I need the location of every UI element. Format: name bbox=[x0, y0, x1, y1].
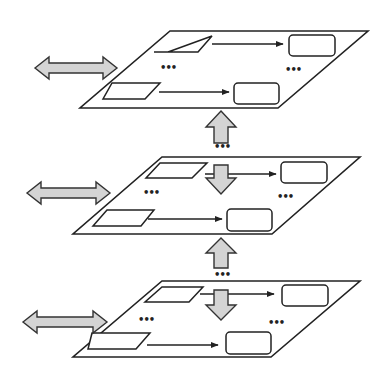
ellipsis-left: ••• bbox=[160, 62, 176, 73]
ellipsis-right: ••• bbox=[285, 64, 301, 75]
ellipsis-right: ••• bbox=[268, 317, 284, 328]
up-arrow-icon bbox=[206, 111, 236, 143]
ellipsis-left: ••• bbox=[138, 314, 154, 325]
output-box bbox=[234, 83, 279, 104]
ellipsis-right: ••• bbox=[277, 191, 293, 202]
layered-architecture-diagram: •••••••••••••••••••••••• bbox=[0, 0, 388, 382]
ellipsis-between-layers: ••• bbox=[214, 269, 230, 280]
output-box bbox=[282, 285, 328, 306]
ellipsis-between-layers: ••• bbox=[214, 141, 230, 152]
output-box bbox=[289, 35, 335, 56]
ellipsis-left: ••• bbox=[143, 187, 159, 198]
bidirectional-arrow-icon bbox=[27, 182, 110, 204]
layer-top: •••••• bbox=[80, 31, 368, 108]
bidirectional-arrow-icon bbox=[23, 311, 107, 333]
output-box bbox=[227, 209, 272, 231]
output-box bbox=[226, 332, 271, 354]
bidirectional-arrow-icon bbox=[35, 57, 117, 79]
up-arrow-icon bbox=[206, 238, 236, 268]
output-box bbox=[281, 162, 327, 183]
